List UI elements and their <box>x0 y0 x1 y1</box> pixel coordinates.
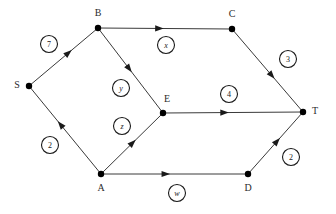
arrow-head-icon <box>155 25 164 31</box>
edge-b-c <box>98 25 232 31</box>
node-dot[interactable] <box>229 26 235 32</box>
graph-figure: SBCETAD 7x3y42zw2 <box>0 0 336 214</box>
edge-weight-s-b[interactable]: 7 <box>41 36 58 53</box>
node-dot[interactable] <box>245 171 251 177</box>
weights-layer: 7x3y42zw2 <box>41 36 300 202</box>
node-c[interactable]: C <box>229 8 236 32</box>
arrow-head-icon <box>220 109 229 115</box>
node-b[interactable]: B <box>95 7 102 31</box>
node-dot[interactable] <box>95 25 101 31</box>
node-label: S <box>14 79 20 90</box>
edge-s-b <box>29 28 98 86</box>
node-d[interactable]: D <box>244 171 251 193</box>
edge-weight-a-e[interactable]: z <box>114 118 131 135</box>
node-t[interactable]: T <box>300 105 318 116</box>
edge-weight-e-t[interactable]: 4 <box>221 86 238 103</box>
node-label: T <box>312 105 318 116</box>
edge-line <box>232 29 303 112</box>
edge-weight-a-s[interactable]: 2 <box>42 137 59 154</box>
nodes-layer: SBCETAD <box>14 7 318 193</box>
edge-weight-b-e[interactable]: y <box>113 80 130 97</box>
node-dot[interactable] <box>98 171 104 177</box>
node-dot[interactable] <box>26 83 32 89</box>
edge-a-e <box>101 113 163 174</box>
weight-label: 4 <box>227 90 231 99</box>
edge-line <box>163 112 303 113</box>
node-a[interactable]: A <box>97 171 105 193</box>
edge-b-e <box>98 28 163 113</box>
edge-line <box>29 86 101 174</box>
node-label: C <box>229 8 236 19</box>
weight-label: y <box>118 84 123 93</box>
node-label: B <box>95 7 102 18</box>
weight-label: 7 <box>47 40 51 49</box>
edge-line <box>29 28 98 86</box>
weight-label: x <box>163 41 168 50</box>
node-label: E <box>164 93 170 104</box>
node-dot[interactable] <box>300 109 306 115</box>
edge-c-t <box>232 29 303 112</box>
edge-line <box>98 28 232 29</box>
edge-a-s <box>29 86 101 174</box>
edge-weight-a-d[interactable]: w <box>169 185 186 202</box>
node-label: D <box>244 182 251 193</box>
weight-label: 3 <box>286 55 290 64</box>
graph-canvas: SBCETAD 7x3y42zw2 <box>0 0 336 214</box>
arrow-head-icon <box>124 64 132 73</box>
edge-weight-c-t[interactable]: 3 <box>280 51 297 68</box>
edge-e-t <box>163 109 303 115</box>
edge-weight-b-c[interactable]: x <box>158 37 175 54</box>
arrow-head-icon <box>58 121 66 130</box>
arrow-head-icon <box>162 171 171 177</box>
edge-a-d <box>101 171 248 177</box>
node-dot[interactable] <box>160 110 166 116</box>
weight-label: 2 <box>289 153 293 162</box>
node-label: A <box>97 182 105 193</box>
edge-weight-d-t[interactable]: 2 <box>283 149 300 166</box>
weight-label: w <box>174 189 180 198</box>
weight-label: 2 <box>48 141 52 150</box>
node-s[interactable]: S <box>14 79 32 90</box>
